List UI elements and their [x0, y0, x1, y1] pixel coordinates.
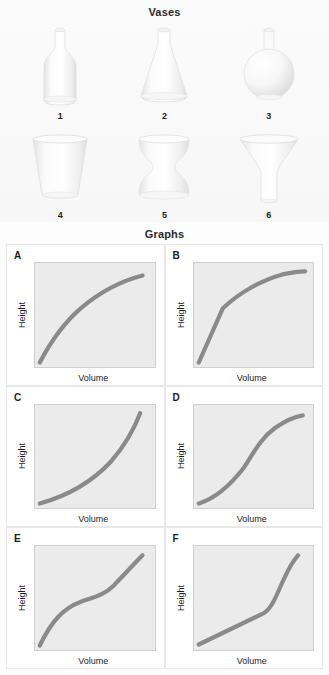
graph-e-plot-area: [34, 545, 156, 651]
graph-b-plot-area: [193, 262, 315, 368]
graph-b-curve: [198, 271, 304, 362]
vase-1-bottle-icon: [23, 24, 97, 110]
graph-panel-c: C Height Volume: [6, 386, 165, 528]
graph-e-y-axis-label: Height: [17, 585, 27, 611]
graph-c-y-axis-label: Height: [17, 443, 27, 469]
graph-d-curve: [198, 415, 302, 503]
graph-a-x-axis-label: Volume: [7, 373, 164, 383]
vases-section: Vases 1: [0, 0, 329, 222]
vase-item-4: 4: [8, 121, 112, 220]
vase-item-5: 5: [112, 121, 216, 220]
graph-f-curve: [198, 556, 297, 645]
graph-d-letter: D: [173, 392, 180, 403]
graph-c-curve: [40, 413, 140, 503]
graph-e-x-axis-label: Volume: [7, 656, 164, 666]
vase-2-label: 2: [162, 111, 167, 121]
vase-item-1: 1: [8, 22, 112, 121]
graph-c-plot-area: [34, 404, 156, 510]
graph-e-curve: [40, 556, 143, 646]
graph-a-plot-area: [34, 262, 156, 368]
vase-3-sphere-flask-icon: [232, 24, 306, 110]
graph-panel-a: A Height Volume: [6, 244, 165, 386]
vase-item-6: 6: [217, 121, 321, 220]
graph-b-y-axis-label: Height: [176, 302, 186, 328]
graph-f-y-axis-label: Height: [176, 585, 186, 611]
graph-panel-d: D Height Volume: [165, 386, 324, 528]
vase-5-label: 5: [162, 210, 167, 220]
graph-d-x-axis-label: Volume: [166, 514, 323, 524]
graph-d-y-axis-label: Height: [176, 443, 186, 469]
graph-panel-f: F Height Volume: [165, 527, 324, 669]
vase-item-3: 3: [217, 22, 321, 121]
graph-b-letter: B: [173, 250, 180, 261]
graph-a-y-axis-label: Height: [17, 302, 27, 328]
vase-3-label: 3: [266, 111, 271, 121]
graph-f-x-axis-label: Volume: [166, 656, 323, 666]
graph-panel-e: E Height Volume: [6, 527, 165, 669]
vase-2-conical-flask-icon: [127, 24, 201, 110]
graph-a-curve: [40, 275, 143, 362]
vase-4-inverted-cone-icon: [23, 129, 97, 209]
vase-1-label: 1: [58, 111, 63, 121]
graph-f-plot-area: [193, 545, 315, 651]
graph-e-letter: E: [14, 533, 21, 544]
vase-6-label: 6: [266, 210, 271, 220]
worksheet-page: Vases 1: [0, 0, 329, 675]
graph-f-letter: F: [173, 533, 179, 544]
vases-section-title: Vases: [0, 6, 329, 18]
vase-6-funnel-icon: [232, 129, 306, 209]
graph-c-x-axis-label: Volume: [7, 514, 164, 524]
vase-grid: 1 2: [8, 22, 321, 220]
vase-4-label: 4: [58, 210, 63, 220]
vase-5-hourglass-icon: [127, 129, 201, 209]
graph-grid: A Height Volume B Height Volume: [6, 244, 323, 669]
graph-b-x-axis-label: Volume: [166, 373, 323, 383]
graph-d-plot-area: [193, 404, 315, 510]
vase-item-2: 2: [112, 22, 216, 121]
graph-a-letter: A: [14, 250, 21, 261]
graph-panel-b: B Height Volume: [165, 244, 324, 386]
graphs-section-title: Graphs: [0, 228, 329, 240]
graph-c-letter: C: [14, 392, 21, 403]
graphs-section: Graphs A Height Volume B Height: [0, 222, 329, 675]
